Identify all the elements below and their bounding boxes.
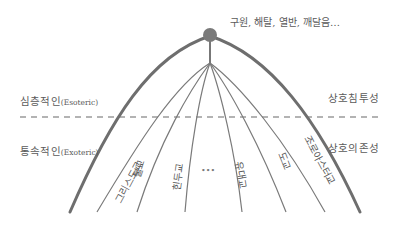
diagram-graphics (0, 0, 397, 234)
religion-mountain-diagram: 구원, 해탈, 열반, 깨달음… 심층적인(Esoteric) 통속적인(Exo… (0, 0, 397, 234)
exoteric-label-en: (Exoteric) (61, 148, 99, 157)
apex-dot (203, 28, 217, 42)
exoteric-label-kr: 통속적인 (20, 145, 61, 157)
exoteric-label: 통속적인(Exoteric) (20, 140, 99, 159)
interdependence-label: 상호의존성 (328, 140, 379, 155)
interpenetration-label: 상호침투성 (328, 90, 379, 105)
religion-paths (97, 63, 325, 212)
religion-label-others-ellipsis: ••• (201, 166, 215, 176)
apex-label: 구원, 해탈, 열반, 깨달음… (230, 14, 340, 29)
esoteric-label-en: (Esoteric) (61, 98, 98, 107)
path-taoism (210, 63, 286, 212)
path-others (210, 63, 220, 212)
path-hinduism (185, 63, 210, 212)
esoteric-label-kr: 심층적인 (20, 95, 61, 107)
esoteric-label: 심층적인(Esoteric) (20, 90, 98, 109)
